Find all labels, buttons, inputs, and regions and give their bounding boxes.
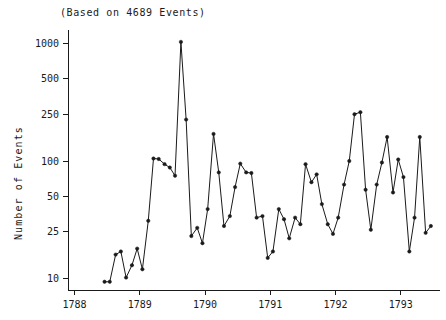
data-point [173, 174, 176, 177]
y-tick-label: 10 [47, 273, 59, 284]
data-point [217, 171, 220, 174]
data-point [299, 223, 302, 226]
data-point [196, 226, 199, 229]
data-point [348, 159, 351, 162]
x-tick-label: 1789 [128, 299, 152, 310]
data-point [184, 118, 187, 121]
data-point [424, 231, 427, 234]
data-point [135, 247, 138, 250]
data-point [359, 111, 362, 114]
data-point [147, 219, 150, 222]
events-line-chart: (Based on 4689 Events) Number of Events … [0, 0, 446, 320]
x-tick-label: 1791 [258, 299, 282, 310]
data-point [342, 183, 345, 186]
data-point [103, 280, 106, 283]
chart-title: (Based on 4689 Events) [60, 7, 206, 18]
data-point [326, 223, 329, 226]
y-tick-label: 50 [47, 191, 59, 202]
data-point [168, 166, 171, 169]
x-axis-ticks: 178817891790179117921793 [62, 290, 412, 310]
data-point [304, 162, 307, 165]
y-tick-label: 500 [41, 73, 59, 84]
data-point [375, 183, 378, 186]
data-point [369, 228, 372, 231]
data-point [244, 171, 247, 174]
chart-container: (Based on 4689 Events) Number of Events … [0, 0, 446, 320]
x-tick-label: 1792 [324, 299, 348, 310]
data-point [408, 250, 411, 253]
x-tick-label: 1790 [193, 299, 217, 310]
data-point [385, 135, 388, 138]
data-point [212, 132, 215, 135]
x-tick-label: 1793 [389, 299, 413, 310]
data-point [157, 157, 160, 160]
data-point [222, 224, 225, 227]
y-tick-label: 25 [47, 226, 59, 237]
data-point [277, 207, 280, 210]
data-point [228, 214, 231, 217]
data-point [261, 214, 264, 217]
x-tick-label: 1788 [62, 299, 86, 310]
data-point [152, 157, 155, 160]
data-point [418, 135, 421, 138]
data-point [293, 216, 296, 219]
data-point [141, 268, 144, 271]
data-point [124, 276, 127, 279]
data-point [429, 224, 432, 227]
data-point [391, 191, 394, 194]
data-point [331, 232, 334, 235]
data-point [397, 158, 400, 161]
data-point [179, 40, 182, 43]
data-point [266, 256, 269, 259]
data-point [310, 181, 313, 184]
data-point [315, 173, 318, 176]
y-axis-title: Number of Events [13, 126, 24, 240]
data-point [282, 218, 285, 221]
series-markers [103, 40, 433, 283]
data-point [336, 216, 339, 219]
y-tick-label: 100 [41, 156, 59, 167]
data-point [114, 253, 117, 256]
data-point [201, 242, 204, 245]
data-point [255, 216, 258, 219]
data-point [250, 171, 253, 174]
data-point [364, 188, 367, 191]
y-tick-label: 250 [41, 109, 59, 120]
data-point [380, 161, 383, 164]
data-point [190, 234, 193, 237]
data-point [271, 250, 274, 253]
data-point [206, 207, 209, 210]
data-point [239, 162, 242, 165]
data-point [288, 237, 291, 240]
data-point [119, 250, 122, 253]
data-point [353, 113, 356, 116]
y-tick-label: 1000 [35, 38, 59, 49]
data-point [163, 162, 166, 165]
data-point [413, 216, 416, 219]
data-point [233, 185, 236, 188]
data-point [320, 202, 323, 205]
data-point [108, 280, 111, 283]
data-point [402, 175, 405, 178]
data-point [130, 264, 133, 267]
y-axis-ticks: 1025501002505001000 [35, 38, 68, 284]
